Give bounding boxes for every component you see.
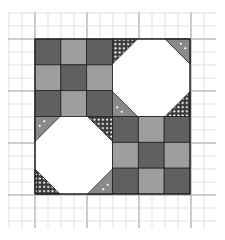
ninepatch-square-medium (87, 65, 113, 91)
corner-dot (43, 120, 45, 122)
ninepatch-square-dark (35, 91, 61, 117)
ninepatch-square-medium (61, 39, 87, 65)
ninepatch-square-dark (87, 91, 113, 117)
ninepatch-square-dark (61, 65, 87, 91)
corner-dot (180, 43, 182, 45)
snowball-top-right (113, 39, 191, 117)
ninepatch-square-dark (113, 117, 139, 143)
quilt-block (35, 39, 190, 194)
nine-patch-bottom-right (113, 117, 191, 195)
snowball-bottom-left (35, 117, 113, 195)
corner-dot (184, 47, 186, 49)
quilt-diagram (0, 0, 225, 240)
corner-dot (102, 188, 104, 190)
ninepatch-square-dark (164, 117, 190, 143)
ninepatch-square-medium (138, 168, 164, 194)
ninepatch-square-dark (87, 39, 113, 65)
ninepatch-square-medium (61, 91, 87, 117)
nine-patch-top-left (35, 39, 113, 117)
corner-dot (121, 111, 123, 113)
corner-dot (107, 184, 109, 186)
ninepatch-square-dark (113, 168, 139, 194)
ninepatch-square-medium (164, 142, 190, 168)
ninepatch-square-medium (35, 65, 61, 91)
ninepatch-square-dark (35, 39, 61, 65)
ninepatch-square-medium (113, 142, 139, 168)
ninepatch-square-dark (138, 142, 164, 168)
ninepatch-square-dark (164, 168, 190, 194)
corner-dot (39, 125, 41, 127)
ninepatch-square-medium (138, 117, 164, 143)
corner-dot (116, 106, 118, 108)
